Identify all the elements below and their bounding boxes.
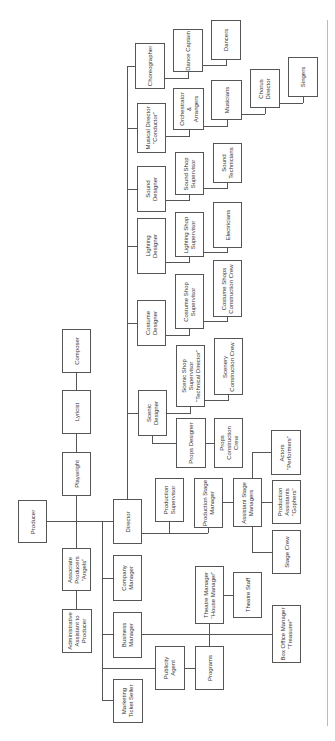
- node-label: Orchestrator & Arrangers: [178, 92, 199, 125]
- connector-line: [204, 252, 228, 253]
- node-label: Actors "Performers": [279, 436, 293, 470]
- node-label: Programs: [206, 655, 213, 681]
- node-programs: Programs: [195, 646, 224, 690]
- node-lighting-designer: Lighting Designer: [137, 218, 166, 274]
- node-lyricist: Lyricist: [62, 390, 91, 434]
- node-label: Scenery Construction Crew: [222, 342, 236, 391]
- node-scenic-shop-supervisor: Scenic Shop Supervisor "Technical Direct…: [176, 345, 205, 407]
- node-marketing-ticket-seller: Marketing Ticket Seller: [113, 679, 143, 723]
- node-label: Costume Designer: [145, 311, 159, 335]
- node-label: Company Manager: [121, 565, 135, 591]
- node-label: Musical Director "Conductor": [145, 106, 159, 149]
- connector-line: [208, 528, 209, 533]
- connector-line: [166, 335, 190, 336]
- node-label: Lighting Designer: [145, 234, 159, 258]
- connector-line: [252, 452, 271, 453]
- connector-line: [167, 413, 191, 414]
- connector-line: [102, 668, 155, 669]
- node-label: Lighting Shop Supervisor: [183, 216, 197, 253]
- node-label: Costume Shop Supervisor: [183, 282, 197, 322]
- connector-line: [47, 521, 113, 522]
- connector-line: [166, 262, 190, 263]
- node-orchestrator-arrangers: Orchestrator & Arrangers: [173, 88, 204, 130]
- connector-line: [185, 668, 195, 669]
- node-label: Dance Captain: [185, 31, 192, 71]
- node-label: Chorus Director: [258, 78, 272, 99]
- node-company-manager: Company Manager: [113, 555, 142, 601]
- node-sound-shop-supervisor: Sound Shop Supervisor: [175, 152, 204, 195]
- connector-line: [142, 634, 272, 635]
- node-director: Director: [113, 499, 142, 544]
- node-label: Administrative Assistant to Producer: [67, 612, 88, 650]
- node-label: Props Construction Crew: [218, 426, 239, 460]
- node-stage-crew: Stage Crew: [272, 530, 301, 574]
- connector-line: [252, 527, 253, 552]
- node-scenery-construction-crew: Scenery Construction Crew: [214, 338, 243, 395]
- connector-line: [189, 130, 190, 136]
- connector-line: [265, 108, 266, 114]
- node-choreographer: Choreographer: [135, 43, 165, 89]
- node-composer: Composer: [62, 329, 91, 373]
- connector-line: [102, 521, 103, 701]
- connector-line: [224, 595, 233, 596]
- node-label: Costume Shops Construction Crew: [221, 264, 235, 313]
- node-label: Props Designer: [188, 422, 195, 463]
- connector-line: [280, 103, 303, 104]
- node-props-designer: Props Designer: [176, 418, 206, 468]
- node-musical-director: Musical Director "Conductor": [137, 103, 166, 153]
- connector-line: [127, 66, 128, 499]
- node-label: Business Manager: [121, 623, 135, 647]
- node-label: Marketing Ticket Seller: [121, 685, 135, 718]
- node-label: Stage Crew: [283, 536, 290, 567]
- node-label: Assistant Stage Managers: [241, 482, 255, 524]
- node-label: Musicians: [223, 87, 230, 114]
- connector-line: [188, 72, 189, 78]
- node-costume-shop-supervisor: Costume Shop Supervisor: [175, 274, 204, 329]
- node-business-manager: Business Manager: [113, 612, 142, 658]
- connector-line: [206, 443, 214, 444]
- node-electricians: Electricians: [213, 202, 242, 248]
- node-production-supervisor: Production Supervisor: [155, 478, 184, 522]
- node-label: Scenic Designer: [146, 401, 160, 425]
- node-label: Playwright: [73, 460, 80, 488]
- node-label: Theatre Manager "House Manager": [203, 572, 217, 619]
- connector-line: [203, 65, 227, 66]
- node-playwright: Playwright: [62, 452, 91, 496]
- connector-line: [204, 126, 228, 127]
- node-producer: Producer: [18, 500, 47, 543]
- node-publicity-agent: Publicity Agent: [155, 646, 185, 690]
- node-production-assistants: Production Assistants "Gophers": [272, 480, 301, 524]
- node-dance-captain: Dance Captain: [173, 29, 203, 72]
- node-label: Electricians: [224, 210, 231, 241]
- connector-line: [76, 591, 77, 609]
- connector-line: [127, 323, 137, 324]
- connector-line: [252, 552, 272, 553]
- node-label: Publicity Agent: [163, 657, 177, 679]
- connector-line: [227, 248, 228, 252]
- connector-line: [228, 395, 229, 400]
- connector-line: [76, 434, 77, 452]
- connector-line: [189, 257, 190, 262]
- connector-line: [127, 246, 137, 247]
- node-props-construction-crew: Props Construction Crew: [214, 418, 243, 468]
- node-costume-designer: Costume Designer: [137, 300, 166, 346]
- connector-line: [76, 373, 77, 390]
- org-chart: ProducerPlaywrightLyricistComposerAssoci…: [0, 0, 335, 741]
- node-label: Production Stage Manager: [202, 480, 216, 526]
- node-label: Choreographer: [147, 46, 154, 86]
- connector-line: [127, 413, 138, 414]
- connector-line: [227, 183, 228, 188]
- node-label: Sound Shop Supervisor: [183, 157, 197, 190]
- node-associate-producers: Associate Producers "Angels": [62, 548, 91, 591]
- connector-line: [226, 60, 227, 65]
- connector-line: [165, 78, 189, 79]
- connector-line: [252, 452, 253, 478]
- connector-line: [303, 97, 304, 103]
- connector-line: [127, 66, 135, 67]
- connector-line: [189, 329, 190, 335]
- connector-line: [227, 120, 228, 126]
- node-label: Dancers: [223, 29, 230, 51]
- connector-line: [166, 136, 190, 137]
- connector-line: [127, 189, 137, 190]
- node-label: Sound Designer: [145, 177, 159, 201]
